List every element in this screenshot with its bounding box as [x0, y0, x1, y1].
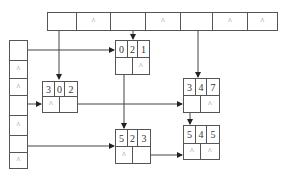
node-right-pointer: ^: [132, 57, 150, 75]
row-head-2: ^: [9, 78, 28, 96]
column-head-6: ^: [247, 12, 278, 31]
node-down-pointer: ^: [42, 96, 60, 113]
row-head-0: [9, 40, 28, 61]
column-head-5: ^: [212, 12, 248, 31]
row-head-6: ^: [9, 152, 28, 169]
node-down-pointer: ^: [183, 143, 201, 160]
column-head-2: [110, 12, 146, 31]
node-right-pointer: [59, 96, 78, 113]
column-head-0: [47, 12, 77, 31]
node-value: 3: [137, 129, 151, 147]
node-value: 2: [64, 81, 78, 97]
row-head-3: [9, 95, 28, 116]
node-right-pointer: ^: [200, 95, 220, 113]
node-value: 5: [206, 125, 220, 144]
column-head-3: ^: [145, 12, 181, 31]
node-right-pointer: ^: [200, 143, 220, 160]
node-down-pointer: ^: [115, 146, 133, 164]
node-down-pointer: [115, 57, 133, 75]
node-down-pointer: [183, 95, 201, 113]
column-head-1: ^: [76, 12, 111, 31]
row-head-4: ^: [9, 115, 28, 136]
node-value: 1: [137, 40, 150, 58]
row-head-1: ^: [9, 60, 28, 79]
node-value: 7: [206, 78, 220, 96]
node-right-pointer: [132, 146, 151, 164]
column-head-4: [180, 12, 213, 31]
row-head-5: [9, 135, 28, 153]
